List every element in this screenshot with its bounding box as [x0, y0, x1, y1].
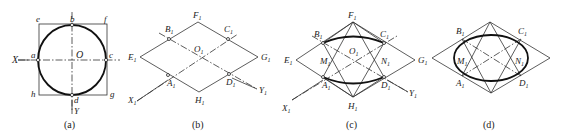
point-c: [104, 58, 107, 61]
svg-text:G1: G1: [261, 52, 271, 63]
label-g: g: [110, 89, 115, 99]
svg-text:F1: F1: [192, 10, 202, 21]
svg-text:H1: H1: [194, 95, 205, 106]
svg-text:C1: C1: [518, 26, 527, 37]
label-a: a: [31, 50, 36, 60]
caption-d: (d): [483, 119, 495, 131]
label-b: b: [70, 14, 75, 24]
label-Y: Y: [74, 106, 80, 116]
svg-text:A1: A1: [166, 78, 176, 89]
panel-d-completed-ellipse: B1 C1 M1 N1 A1 D1 (d): [432, 22, 550, 131]
svg-text:B1: B1: [314, 29, 323, 40]
svg-text:B1: B1: [456, 26, 465, 37]
caption-b: (b): [192, 119, 204, 131]
svg-text:F1: F1: [347, 10, 357, 21]
isometric-ellipse-construction-figure: e b f X a O c h d g Y (a) F1 B1 C1 O1 G1…: [0, 0, 564, 140]
svg-text:D1: D1: [380, 80, 391, 91]
svg-text:C1: C1: [380, 29, 389, 40]
svg-text:A1: A1: [455, 78, 465, 89]
svg-text:E1: E1: [283, 55, 293, 66]
caption-c: (c): [346, 119, 357, 131]
svg-text:Y1: Y1: [409, 88, 417, 99]
label-O: O: [76, 49, 83, 60]
svg-text:D1: D1: [518, 78, 529, 89]
svg-text:X1: X1: [127, 95, 137, 106]
svg-text:H1: H1: [347, 101, 358, 112]
svg-text:O1: O1: [349, 46, 359, 57]
panel-c-four-center-construction: F1 B1 C1 O1 M1 N1 G1 E1 A1 D1 H1 Y1 X1 (…: [281, 10, 428, 131]
label-e: e: [36, 14, 40, 24]
y1-axis: [159, 33, 257, 89]
top-arc: [323, 37, 384, 44]
svg-text:M1: M1: [319, 56, 331, 67]
point-a: [36, 58, 39, 61]
panel-b-isometric-rhombus: F1 B1 C1 O1 G1 A1 D1 H1 Y1 E1 X1 (b): [127, 10, 271, 131]
svg-text:G1: G1: [418, 55, 428, 66]
svg-text:C1: C1: [224, 24, 233, 35]
panel-a-circle-in-square: e b f X a O c h d g Y (a): [11, 12, 120, 131]
svg-text:N1: N1: [514, 56, 524, 67]
label-h: h: [31, 89, 36, 99]
caption-a: (a): [64, 119, 75, 131]
svg-text:O1: O1: [194, 44, 204, 55]
svg-text:X1: X1: [281, 103, 291, 114]
svg-text:Y1: Y1: [259, 85, 267, 96]
svg-text:E1: E1: [127, 52, 137, 63]
label-d: d: [74, 95, 79, 105]
svg-text:M1: M1: [456, 56, 468, 67]
label-X: X: [11, 54, 19, 65]
label-c: c: [109, 50, 113, 60]
svg-text:B1: B1: [165, 24, 174, 35]
label-f: f: [104, 14, 108, 24]
svg-text:N1: N1: [380, 56, 390, 67]
